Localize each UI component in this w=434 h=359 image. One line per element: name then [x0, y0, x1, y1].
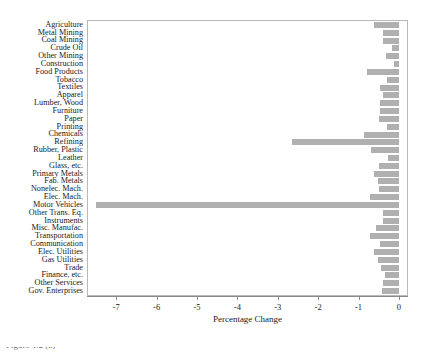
bar	[380, 108, 399, 114]
x-axis-tick	[237, 296, 238, 300]
bar	[388, 155, 399, 161]
bar	[367, 69, 398, 75]
x-axis-tick	[399, 296, 400, 300]
bar	[371, 147, 399, 153]
bar	[378, 257, 399, 263]
bar	[387, 77, 399, 83]
bar	[370, 233, 399, 239]
bar	[376, 225, 399, 231]
bar	[383, 280, 399, 286]
bar	[379, 186, 399, 192]
bar	[381, 265, 399, 271]
x-axis-tick-label: -6	[142, 302, 172, 312]
x-axis-tick-label: 0	[384, 302, 414, 312]
bar	[364, 132, 399, 138]
x-axis-tick	[157, 296, 158, 300]
bar	[379, 116, 399, 122]
x-axis-tick	[197, 296, 198, 300]
bar	[383, 218, 399, 224]
bar	[380, 100, 399, 106]
x-axis-tick-label: -4	[222, 302, 252, 312]
bar	[386, 53, 399, 59]
bar	[392, 45, 399, 51]
x-axis-line	[87, 296, 408, 297]
bar	[370, 194, 399, 200]
bar	[383, 30, 399, 36]
bar	[379, 163, 399, 169]
bar	[385, 272, 399, 278]
bar	[374, 171, 399, 177]
figure-caption-text: Figure 1.2 (a)	[6, 347, 206, 350]
bar	[383, 38, 399, 44]
bar	[374, 249, 399, 255]
x-axis-title: Percentage Change	[87, 314, 408, 324]
x-axis-tick-label: -7	[101, 302, 131, 312]
bar	[387, 124, 399, 130]
figure-caption: Figure 1.2 (a)	[6, 347, 206, 359]
x-axis-tick	[318, 296, 319, 300]
x-axis-tick	[116, 296, 117, 300]
x-axis-tick-label: -2	[303, 302, 333, 312]
x-axis-tick	[278, 296, 279, 300]
bar	[96, 202, 399, 208]
bar	[380, 241, 399, 247]
category-axis-labels: AgricultureMetal MiningCoal MiningCrude …	[0, 20, 83, 296]
bar	[374, 22, 399, 28]
x-axis-tick	[359, 296, 360, 300]
bar	[382, 288, 399, 294]
bar	[380, 85, 399, 91]
bar	[292, 139, 399, 145]
bar-chart-figure: AgricultureMetal MiningCoal MiningCrude …	[0, 0, 434, 359]
x-axis-tick-label: -1	[344, 302, 374, 312]
bar-series	[88, 21, 407, 295]
x-axis-tick-label: -3	[263, 302, 293, 312]
category-label: Gov. Enterprises	[0, 287, 83, 295]
bar	[378, 178, 399, 184]
x-axis-tick-label: -5	[182, 302, 212, 312]
bar	[383, 92, 399, 98]
bar	[394, 61, 399, 67]
bar	[383, 210, 399, 216]
